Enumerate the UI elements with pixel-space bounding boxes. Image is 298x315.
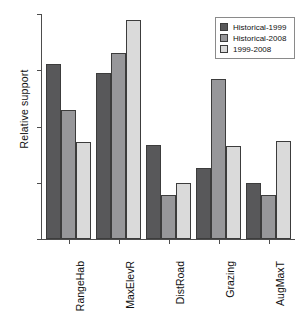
x-tick-mark bbox=[269, 240, 270, 244]
bar bbox=[76, 142, 91, 239]
bar bbox=[211, 79, 226, 239]
bar bbox=[126, 20, 141, 239]
legend-label: 1999-2008 bbox=[233, 45, 271, 54]
bar bbox=[46, 64, 61, 239]
x-category-label: RangeHab bbox=[74, 261, 86, 315]
bar bbox=[196, 168, 211, 239]
legend-swatch-icon bbox=[220, 45, 228, 53]
y-axis-label: Relative support bbox=[18, 39, 30, 179]
legend-swatch-icon bbox=[220, 34, 228, 42]
bar bbox=[96, 73, 111, 239]
bar bbox=[246, 183, 261, 239]
y-tick-mark bbox=[37, 70, 41, 71]
y-tick-mark bbox=[37, 239, 41, 240]
legend-swatch-icon bbox=[220, 23, 228, 31]
x-tick-mark bbox=[219, 240, 220, 244]
x-category-label: AugMaxT bbox=[274, 261, 286, 315]
bar bbox=[161, 195, 176, 239]
bar bbox=[111, 53, 126, 239]
bar bbox=[61, 110, 76, 239]
y-tick-mark bbox=[37, 183, 41, 184]
x-category-label: DistRoad bbox=[174, 261, 186, 315]
bar bbox=[176, 183, 191, 239]
y-tick-mark bbox=[37, 127, 41, 128]
bar bbox=[261, 195, 276, 239]
x-category-label: Grazing bbox=[224, 261, 236, 315]
x-tick-mark bbox=[69, 240, 70, 244]
x-tick-mark bbox=[119, 240, 120, 244]
bar bbox=[146, 145, 161, 240]
x-category-label: MaxElevR bbox=[124, 261, 136, 315]
bar bbox=[276, 141, 291, 239]
legend-item: Historical-1999 bbox=[220, 22, 290, 32]
chart-legend: Historical-1999Historical-20081999-2008 bbox=[215, 17, 295, 59]
legend-label: Historical-2008 bbox=[233, 34, 286, 43]
y-tick-mark bbox=[37, 14, 41, 15]
legend-label: Historical-1999 bbox=[233, 23, 286, 32]
x-tick-mark bbox=[169, 240, 170, 244]
legend-item: Historical-2008 bbox=[220, 33, 290, 43]
y-axis-line bbox=[41, 14, 42, 240]
bar bbox=[226, 146, 241, 239]
legend-item: 1999-2008 bbox=[220, 44, 290, 54]
